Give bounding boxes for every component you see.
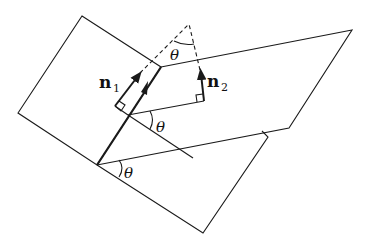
- normal-n2: [201, 74, 204, 101]
- angle-arc-bottom: [119, 160, 122, 177]
- plane-2-perpendicular: [128, 101, 204, 115]
- n1-base-segment: [115, 106, 128, 115]
- normal-n2-extension: [189, 24, 200, 70]
- label-theta-middle: θ: [156, 118, 165, 136]
- normal-n1-extension: [140, 24, 189, 73]
- label-theta-bottom: θ: [124, 164, 133, 182]
- plane-1: [18, 16, 161, 165]
- angle-arc-middle: [150, 111, 153, 129]
- label-n1-subscript: 1: [113, 82, 120, 95]
- plane-1-lower: [97, 131, 268, 233]
- label-n2: n: [207, 71, 219, 91]
- right-angle-n2-icon: [196, 94, 203, 102]
- label-n2-subscript: 2: [221, 81, 228, 94]
- angle-arc-top: [174, 41, 194, 45]
- label-theta-top: θ: [170, 46, 179, 64]
- label-n1: n: [99, 72, 111, 92]
- dihedral-angle-diagram: n 1 n 2 θ θ θ: [0, 0, 367, 248]
- intersection-arrow-icon: [141, 81, 148, 95]
